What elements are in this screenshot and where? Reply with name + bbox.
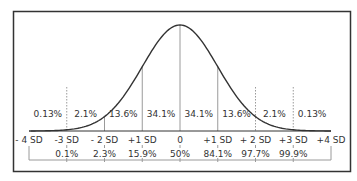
sd-axis-labels: - 4 SD-3 SD- 2 SD+1 SD0+1 SD+ 2 SD+3 SD+… [15,135,345,145]
sd-axis-label: +1 SD [128,135,157,145]
cumulative-percentile-label: 99.9% [279,149,308,159]
sd-dividers [67,25,294,131]
sd-axis-label: -3 SD [55,135,80,145]
region-percent-label: 2.1% [263,109,286,119]
region-percent-label: 0.13% [34,109,63,119]
cumulative-percentile-label: 97.7% [241,149,270,159]
sd-axis-label: 0 [177,135,183,145]
normal-distribution-chart: 0.13%2.1%13.6%34.1%34.1%13.6%2.1%0.13% -… [0,0,357,181]
region-percent-label: 34.1% [185,109,214,119]
chart-frame [14,12,351,172]
region-percent-label: 34.1% [147,109,176,119]
region-percent-label: 13.6% [222,109,251,119]
sd-axis-label: +3 SD [279,135,308,145]
sd-axis-label: + 2 SD [240,135,272,145]
region-percent-label: 0.13% [298,109,327,119]
sd-axis-label: +4 SD [317,135,346,145]
cumulative-percentile-label: 2.3% [93,149,116,159]
cumulative-percentile-label: 15.9% [128,149,157,159]
sd-axis-label: +1 SD [203,135,232,145]
region-percent-label: 2.1% [74,109,97,119]
region-percent-label: 13.6% [109,109,138,119]
sd-axis-label: - 2 SD [91,135,118,145]
sd-axis-label: - 4 SD [15,135,42,145]
cumulative-percentile-label: 50% [170,149,190,159]
cumulative-percentile-labels: 0.1%2.3%15.9%50%84.1%97.7%99.9% [55,149,308,159]
cumulative-percentile-label: 0.1% [55,149,78,159]
cumulative-percentile-label: 84.1% [203,149,232,159]
